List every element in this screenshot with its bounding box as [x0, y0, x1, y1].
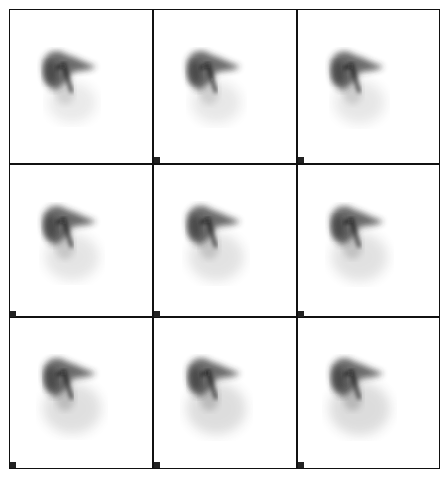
activity-image	[154, 10, 297, 163]
scan-frame	[154, 318, 297, 468]
frame-number-label	[298, 157, 304, 163]
scan-frame	[298, 10, 439, 163]
frame-number-label	[154, 311, 160, 317]
activity-image	[10, 318, 152, 468]
frame-number-label	[154, 462, 160, 468]
activity-image	[154, 318, 297, 468]
activity-image	[10, 165, 152, 318]
scan-frame	[10, 165, 152, 318]
scan-frame	[154, 165, 297, 318]
frame-grid	[9, 9, 440, 469]
activity-image	[10, 10, 152, 163]
activity-image	[298, 318, 439, 468]
scan-frame	[298, 318, 439, 468]
scan-frame	[10, 318, 152, 468]
frame-number-label	[154, 157, 160, 163]
scan-frame	[298, 165, 439, 318]
scan-frame	[154, 10, 297, 163]
frame-number-label	[10, 462, 16, 468]
frame-number-label	[10, 311, 16, 317]
activity-image	[154, 165, 297, 318]
activity-image	[298, 10, 439, 163]
frame-number-label	[298, 462, 304, 468]
scan-frame	[10, 10, 152, 163]
activity-image	[298, 165, 439, 318]
frame-number-label	[298, 311, 304, 317]
